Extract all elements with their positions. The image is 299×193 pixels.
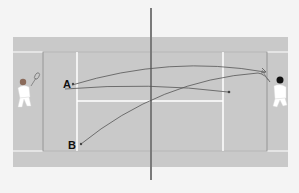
ball-landing-point-icon [228, 91, 231, 94]
position-label-b: B [68, 140, 76, 151]
point-b-icon [80, 143, 82, 145]
position-label-a: A [63, 79, 71, 90]
point-a-icon [72, 83, 74, 85]
tennis-court-diagram [0, 0, 299, 193]
